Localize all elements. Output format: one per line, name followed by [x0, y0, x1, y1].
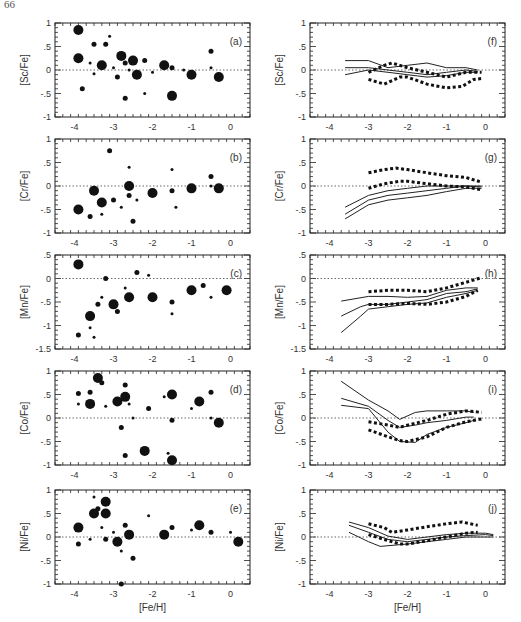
data-point: [194, 397, 204, 407]
model-curve: [341, 398, 474, 427]
x-tick-label: -2: [148, 470, 156, 480]
data-point: [101, 497, 111, 507]
x-tick-label: -3: [364, 238, 372, 248]
y-axis-label: [Sc/Fe]: [274, 54, 285, 86]
data-point: [194, 520, 204, 530]
data-point: [171, 312, 174, 315]
data-point: [88, 390, 93, 395]
data-point: [147, 274, 150, 277]
data-point: [222, 285, 232, 295]
y-tick-label: -1: [43, 228, 51, 238]
model-curve: [345, 186, 482, 214]
panel-i: -4-3-2-101.50-.5-1[Co/Fe](i): [274, 366, 505, 480]
data-point: [111, 198, 116, 203]
data-point: [73, 25, 83, 35]
data-point: [146, 406, 151, 411]
y-tick-label: -.5: [295, 437, 306, 447]
data-point: [167, 452, 170, 455]
data-point: [103, 42, 108, 47]
data-point: [89, 186, 99, 196]
data-point: [135, 199, 138, 202]
abundance-figure: -4-3-2-101.50-.5-1[Sc/Fe](a)-4-3-2-101.5…: [0, 0, 521, 622]
data-point: [93, 336, 96, 339]
data-point: [76, 391, 81, 396]
data-point: [209, 49, 214, 54]
data-point: [159, 530, 169, 540]
y-tick-label: .5: [43, 509, 51, 519]
data-point: [190, 407, 193, 410]
data-point: [123, 96, 128, 101]
panel-b: -4-3-2-101.50-.5-1[Cr/Fe](b): [19, 134, 250, 248]
data-point: [143, 92, 146, 95]
data-point: [214, 72, 224, 82]
panel-label: (f): [488, 36, 497, 47]
y-tick-label: -.5: [295, 556, 306, 566]
model-curve-dotted: [369, 168, 482, 182]
x-tick-label: -2: [148, 589, 156, 599]
x-tick-label: -2: [148, 354, 156, 364]
y-tick-label: 0: [46, 274, 51, 284]
data-point: [170, 188, 175, 193]
panel-label: (h): [485, 268, 497, 279]
panel-d: -4-3-2-101.50-.5-1[Co/Fe](d): [19, 366, 250, 480]
data-point: [119, 582, 124, 587]
data-point: [112, 531, 115, 534]
panel-f: -4-3-2-101.50-.5-1[Sc/Fe](f): [274, 18, 505, 132]
x-tick-label: -4: [70, 470, 78, 480]
y-tick-label: -.5: [40, 89, 51, 99]
data-point: [131, 219, 136, 224]
panel-label: (a): [230, 36, 242, 47]
data-point: [201, 283, 206, 288]
data-point: [104, 405, 107, 408]
x-tick-label: -1: [187, 354, 195, 364]
panel-label: (j): [488, 503, 497, 514]
y-axis-label: [Ni/Fe]: [19, 522, 30, 552]
y-tick-label: 0: [301, 65, 306, 75]
y-tick-label: -1: [43, 579, 51, 589]
model-curve: [345, 188, 482, 219]
x-tick-label: -4: [325, 354, 333, 364]
panel-label: (e): [230, 503, 242, 514]
data-point: [214, 183, 224, 193]
data-point: [120, 206, 123, 209]
data-point: [73, 259, 83, 269]
y-tick-label: -1: [298, 579, 306, 589]
y-tick-label: -1: [298, 321, 306, 331]
y-tick-label: .5: [298, 42, 306, 52]
data-point: [209, 390, 214, 395]
y-tick-label: 0: [301, 274, 306, 284]
data-point: [124, 181, 134, 191]
x-tick-label: 0: [228, 122, 233, 132]
y-tick-label: 1: [301, 134, 306, 144]
data-point: [80, 86, 85, 91]
data-point: [148, 188, 158, 198]
x-tick-label: 0: [228, 470, 233, 480]
data-point: [159, 60, 169, 70]
y-tick-label: 0: [46, 413, 51, 423]
y-tick-label: -1.5: [35, 344, 51, 354]
y-axis-label: [Co/Fe]: [274, 401, 285, 434]
x-tick-label: -4: [70, 122, 78, 132]
x-tick-label: 0: [483, 470, 488, 480]
data-point: [170, 300, 175, 305]
data-point: [93, 72, 96, 75]
y-tick-label: 1: [46, 18, 51, 28]
x-tick-label: -3: [364, 589, 372, 599]
x-tick-label: -1: [442, 589, 450, 599]
data-point: [131, 556, 136, 561]
x-tick-label: 0: [483, 122, 488, 132]
x-axis-label: [Fe/H]: [394, 602, 421, 613]
x-tick-label: -2: [403, 589, 411, 599]
x-tick-label: -1: [187, 238, 195, 248]
data-point: [92, 42, 97, 47]
data-point: [174, 206, 177, 209]
data-point: [95, 302, 100, 307]
data-point: [167, 390, 177, 400]
data-point: [100, 213, 103, 216]
data-point: [128, 402, 131, 405]
x-tick-label: -1: [442, 238, 450, 248]
panel-e: -4-3-2-101.50-.5-1[Ni/Fe](e)[Fe/H]: [19, 485, 250, 613]
x-tick-label: -2: [403, 354, 411, 364]
y-tick-label: -.5: [40, 297, 51, 307]
model-curve-dotted: [369, 532, 478, 544]
